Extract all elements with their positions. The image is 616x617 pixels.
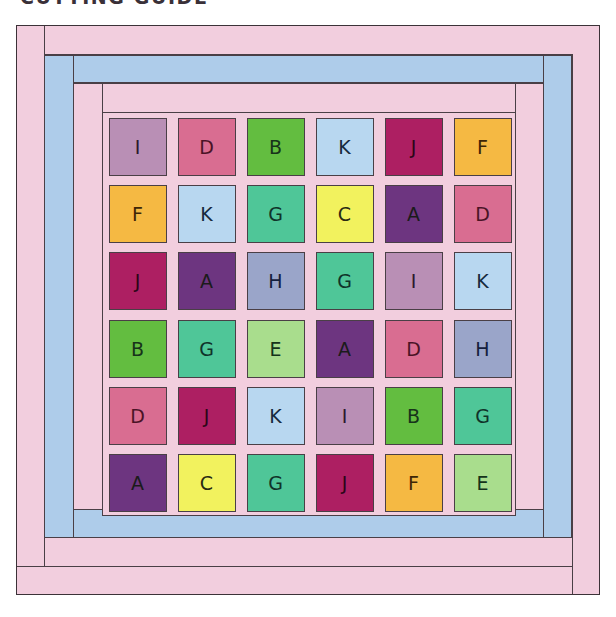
fabric-block: B — [385, 387, 443, 445]
fabric-block: I — [385, 252, 443, 310]
fabric-block: D — [109, 387, 167, 445]
block-field: IDBKJFFKGCADJAHGIKBGEADHDJKIBGACGJFE — [102, 112, 516, 516]
fabric-block: F — [109, 185, 167, 243]
fabric-block: K — [454, 252, 512, 310]
grid-cell: B — [103, 315, 172, 382]
grid-cell: G — [310, 248, 379, 315]
fabric-block: F — [385, 454, 443, 512]
grid-cell: J — [172, 382, 241, 449]
grid-cell: E — [241, 315, 310, 382]
fabric-block: G — [178, 320, 236, 378]
fabric-block: E — [247, 320, 305, 378]
grid-cell: H — [448, 315, 517, 382]
page-title: CUTTING GUIDE — [20, 0, 209, 8]
grid-cell: G — [172, 315, 241, 382]
grid-cell: I — [379, 248, 448, 315]
grid-cell: A — [103, 450, 172, 517]
fabric-block: J — [385, 118, 443, 176]
inner-border-strip-top — [102, 83, 516, 113]
page-title-clipped: CUTTING GUIDE — [20, 0, 440, 9]
grid-cell: K — [310, 113, 379, 180]
fabric-block: K — [247, 387, 305, 445]
fabric-block: G — [454, 387, 512, 445]
grid-cell: A — [310, 315, 379, 382]
fabric-block: A — [316, 320, 374, 378]
inner-border-strip-right — [515, 83, 544, 510]
fabric-block: B — [247, 118, 305, 176]
quilt-diagram: IDBKJFFKGCADJAHGIKBGEADHDJKIBGACGJFE — [16, 25, 600, 595]
grid-cell: B — [241, 113, 310, 180]
fabric-block: J — [316, 454, 374, 512]
grid-cell: C — [172, 450, 241, 517]
grid-cell: H — [241, 248, 310, 315]
fabric-block: C — [316, 185, 374, 243]
fabric-block: E — [454, 454, 512, 512]
fabric-block: D — [454, 185, 512, 243]
grid-cell: J — [103, 248, 172, 315]
fabric-block: A — [109, 454, 167, 512]
fabric-block: G — [247, 454, 305, 512]
grid-cell: C — [310, 180, 379, 247]
grid-cell: B — [379, 382, 448, 449]
fabric-block: A — [385, 185, 443, 243]
fabric-block: F — [454, 118, 512, 176]
grid-cell: G — [241, 450, 310, 517]
inner-border-strip-left — [73, 83, 103, 510]
grid-cell: F — [103, 180, 172, 247]
grid-cell: G — [448, 382, 517, 449]
outer-border-seam-right — [572, 54, 573, 594]
fabric-block: H — [454, 320, 512, 378]
grid-cell: A — [379, 180, 448, 247]
grid-cell: K — [448, 248, 517, 315]
fabric-block: K — [316, 118, 374, 176]
grid-cell: A — [172, 248, 241, 315]
fabric-block: I — [316, 387, 374, 445]
middle-border-strip-right — [543, 55, 572, 538]
grid-cell: F — [448, 113, 517, 180]
middle-border-strip-left — [44, 55, 74, 538]
grid-cell: D — [172, 113, 241, 180]
grid-cell: K — [241, 382, 310, 449]
cutting-guide-page: CUTTING GUIDE IDBKJFFKGCADJAHGIKBGEADHDJ… — [0, 0, 616, 617]
grid-cell: D — [448, 180, 517, 247]
grid-cell: J — [310, 450, 379, 517]
grid-cell: E — [448, 450, 517, 517]
grid-cell: G — [241, 180, 310, 247]
fabric-block: C — [178, 454, 236, 512]
block-grid: IDBKJFFKGCADJAHGIKBGEADHDJKIBGACGJFE — [103, 113, 517, 517]
grid-cell: I — [310, 382, 379, 449]
fabric-block: I — [109, 118, 167, 176]
fabric-block: G — [247, 185, 305, 243]
grid-cell: I — [103, 113, 172, 180]
grid-cell: F — [379, 450, 448, 517]
outer-border-seam-bottom — [17, 566, 572, 567]
grid-cell: D — [379, 315, 448, 382]
fabric-block: J — [109, 252, 167, 310]
middle-border-strip-top — [73, 55, 544, 83]
fabric-block: B — [109, 320, 167, 378]
grid-cell: K — [172, 180, 241, 247]
fabric-block: D — [178, 118, 236, 176]
fabric-block: H — [247, 252, 305, 310]
grid-cell: J — [379, 113, 448, 180]
fabric-block: G — [316, 252, 374, 310]
fabric-block: D — [385, 320, 443, 378]
fabric-block: J — [178, 387, 236, 445]
grid-cell: D — [103, 382, 172, 449]
fabric-block: A — [178, 252, 236, 310]
fabric-block: K — [178, 185, 236, 243]
